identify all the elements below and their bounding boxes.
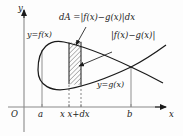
area-element-label: dA =|f(x)−g(x)|dx <box>59 13 135 22</box>
leader-line-height <box>79 52 112 66</box>
x-tick-label-x-and-x-plus-dx: x x+dx <box>60 110 90 119</box>
height-difference-label: |f(x)−g(x)| <box>111 31 155 40</box>
area-element-strip <box>69 42 81 85</box>
origin-label: O <box>11 110 18 119</box>
x-tick-label-b: b <box>127 110 132 119</box>
curve-g-label: y=g(x) <box>97 81 124 89</box>
x-axis-label: x <box>169 110 174 119</box>
area-between-curves-figure: dA =|f(x)−g(x)|dx |f(x)−g(x)| y=f(x) y=g… <box>0 0 183 136</box>
strip-hatch-fill <box>69 42 81 85</box>
x-tick-label-a: a <box>38 110 43 119</box>
curve-f-label: y=f(x) <box>27 31 52 39</box>
ordinate-lines-group <box>42 50 131 107</box>
y-axis-label: y <box>18 4 23 13</box>
curve-f <box>38 41 163 83</box>
